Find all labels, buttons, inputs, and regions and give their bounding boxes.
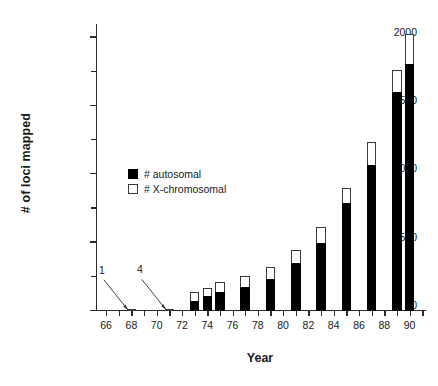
bar-segment-autosomal — [316, 243, 326, 311]
bar — [203, 288, 213, 311]
y-tick-major — [90, 105, 96, 106]
x-tick-minor — [144, 311, 145, 316]
bar-segment-x-chromosomal — [165, 309, 175, 311]
x-tick-label: 80 — [277, 319, 289, 331]
x-tick-label: 72 — [176, 319, 188, 331]
x-tick-major — [334, 311, 335, 316]
bar-segment-autosomal — [367, 165, 377, 311]
x-tick-minor — [422, 311, 423, 316]
x-tick-label: 70 — [151, 319, 163, 331]
bar — [316, 227, 326, 311]
x-tick-label: 74 — [201, 319, 213, 331]
annotation-label: 1 — [99, 264, 105, 276]
bar-segment-autosomal — [190, 301, 200, 311]
x-axis-line — [96, 310, 426, 311]
x-tick-major — [283, 311, 284, 316]
bar-segment-autosomal — [266, 279, 276, 311]
x-tick-major — [207, 311, 208, 316]
legend-item: # X-chromosomal — [128, 182, 226, 195]
x-axis-title: Year — [95, 351, 425, 365]
bar-segment-autosomal — [240, 287, 250, 311]
legend-item: # autosomal — [128, 167, 226, 180]
bar — [190, 292, 200, 311]
annotation-label: 4 — [137, 263, 143, 275]
bar — [342, 188, 352, 311]
bar-segment-autosomal — [215, 292, 225, 311]
bar — [392, 70, 402, 311]
bar — [127, 309, 137, 311]
legend-swatch-hollow — [128, 184, 138, 194]
bar — [291, 250, 301, 312]
x-tick-label: 76 — [227, 319, 239, 331]
bar-segment-autosomal — [342, 203, 352, 311]
x-tick-minor — [321, 311, 322, 316]
x-tick-minor — [346, 311, 347, 316]
legend-label: # autosomal — [144, 168, 201, 180]
x-tick-label: 86 — [353, 319, 365, 331]
x-tick-minor — [195, 311, 196, 316]
x-tick-major — [359, 311, 360, 316]
x-tick-major — [106, 311, 107, 316]
bar — [215, 282, 225, 311]
x-tick-major — [258, 311, 259, 316]
annotation-arrow — [142, 279, 166, 309]
bar-segment-x-chromosomal — [127, 309, 137, 311]
y-tick-major — [90, 241, 96, 242]
bar-segment-autosomal — [203, 296, 213, 311]
x-tick-label: 66 — [100, 319, 112, 331]
y-tick-minor — [91, 139, 96, 140]
x-tick-major — [384, 311, 385, 316]
bar — [405, 34, 415, 311]
x-tick-major — [157, 311, 158, 316]
bar — [165, 309, 175, 311]
x-tick-major — [410, 311, 411, 316]
x-tick-label: 90 — [404, 319, 416, 331]
x-tick-minor — [270, 311, 271, 316]
x-tick-minor — [296, 311, 297, 316]
x-tick-minor — [119, 311, 120, 316]
x-tick-major — [131, 311, 132, 316]
x-tick-major — [308, 311, 309, 316]
x-tick-minor — [372, 311, 373, 316]
legend-swatch-filled — [128, 169, 138, 179]
bar-segment-autosomal — [405, 64, 415, 311]
x-tick-minor — [220, 311, 221, 316]
x-tick-label: 88 — [378, 319, 390, 331]
y-tick-minor — [91, 71, 96, 72]
y-tick-major — [90, 173, 96, 174]
x-tick-minor — [169, 311, 170, 316]
y-tick-minor — [91, 207, 96, 208]
x-tick-major — [182, 311, 183, 316]
y-tick-major — [90, 310, 96, 311]
bar — [266, 267, 276, 311]
y-axis-title: # of loci mapped — [19, 73, 33, 253]
x-tick-label: 82 — [303, 319, 315, 331]
bar-segment-autosomal — [392, 92, 402, 311]
y-tick-major — [90, 36, 96, 37]
y-tick-minor — [91, 276, 96, 277]
x-tick-major — [233, 311, 234, 316]
bar — [240, 276, 250, 311]
legend-label: # X-chromosomal — [144, 183, 226, 195]
x-tick-label: 68 — [126, 319, 138, 331]
x-tick-label: 78 — [252, 319, 264, 331]
annotation-arrow — [104, 280, 128, 310]
bar-segment-autosomal — [291, 263, 301, 311]
x-tick-minor — [245, 311, 246, 316]
bar-chart-figure: # of loci mapped Year 0500100015002000 6… — [0, 0, 438, 386]
chart-legend: # autosomal# X-chromosomal — [128, 167, 226, 197]
x-tick-label: 84 — [328, 319, 340, 331]
bar — [367, 142, 377, 311]
y-axis-line — [96, 24, 97, 311]
x-tick-minor — [397, 311, 398, 316]
